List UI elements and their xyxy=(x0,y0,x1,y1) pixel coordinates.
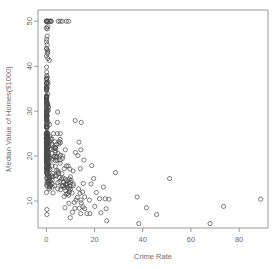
data-point xyxy=(135,195,139,199)
data-point xyxy=(99,211,103,215)
data-point xyxy=(63,148,67,152)
data-point xyxy=(56,187,60,191)
y-tick-label: 30 xyxy=(25,107,34,115)
y-axis-title: Median Value of Homes($1000) xyxy=(4,66,13,172)
data-point xyxy=(56,110,60,114)
data-point xyxy=(101,185,105,189)
data-point xyxy=(77,140,81,144)
data-point xyxy=(79,201,83,205)
data-point xyxy=(89,182,93,186)
y-tick-label: 40 xyxy=(25,62,34,70)
data-point xyxy=(68,167,72,171)
data-point xyxy=(77,206,81,210)
data-point xyxy=(73,206,77,210)
chart-canvas: 020406080 1020304050 Crime Rate Median V… xyxy=(0,0,276,269)
data-point xyxy=(155,212,159,216)
axes-layer: 020406080 1020304050 xyxy=(25,10,268,244)
x-tick-label: 40 xyxy=(139,235,147,244)
data-point xyxy=(79,148,83,152)
data-point xyxy=(77,187,81,191)
data-point xyxy=(104,207,108,211)
data-point xyxy=(93,204,97,208)
data-point xyxy=(137,221,141,225)
data-point xyxy=(68,216,72,220)
x-tick-label: 80 xyxy=(235,235,243,244)
data-point xyxy=(79,120,83,124)
data-point xyxy=(67,201,71,205)
data-point xyxy=(55,120,59,124)
data-point xyxy=(87,198,91,202)
data-point xyxy=(81,181,85,185)
data-point xyxy=(82,158,86,162)
x-tick-label: 20 xyxy=(90,235,98,244)
data-point xyxy=(97,197,101,201)
data-point xyxy=(45,207,49,211)
data-point xyxy=(44,190,48,194)
scatter-plot-figure: 020406080 1020304050 Crime Rate Median V… xyxy=(0,0,276,269)
x-axis-title: Crime Rate xyxy=(134,252,172,261)
data-point xyxy=(79,212,83,216)
x-tick-label: 60 xyxy=(187,235,195,244)
y-tick-label: 20 xyxy=(25,152,34,160)
data-point xyxy=(70,210,74,214)
data-point xyxy=(113,171,117,175)
data-point xyxy=(221,204,225,208)
x-axis-ticks: 020406080 xyxy=(44,228,243,244)
data-point xyxy=(92,176,96,180)
data-point xyxy=(259,197,263,201)
data-point xyxy=(63,206,67,210)
data-point xyxy=(73,118,77,122)
data-point xyxy=(78,167,82,171)
data-point xyxy=(105,219,109,223)
data-point xyxy=(44,65,48,69)
data-point xyxy=(51,191,55,195)
data-point xyxy=(58,132,62,136)
y-tick-label: 50 xyxy=(25,17,34,25)
y-tick-label: 10 xyxy=(25,197,34,205)
data-point xyxy=(94,190,98,194)
data-point xyxy=(167,176,171,180)
data-point xyxy=(76,154,80,158)
data-point xyxy=(90,163,94,167)
data-point xyxy=(45,212,49,216)
data-point xyxy=(88,212,92,216)
y-axis-ticks: 1020304050 xyxy=(25,17,38,205)
data-point xyxy=(208,221,212,225)
x-tick-label: 0 xyxy=(44,235,48,244)
data-point xyxy=(144,206,148,210)
data-point xyxy=(83,195,87,199)
data-points-layer xyxy=(44,19,262,225)
